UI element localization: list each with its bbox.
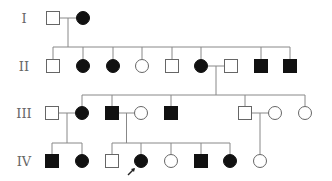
unaffected-female-ii-4 [136, 60, 149, 73]
unaffected-female-iii-7 [269, 107, 282, 120]
affected-female-iv-4 [135, 155, 148, 168]
generation-label: IV [17, 154, 32, 169]
unaffected-male-ii-1 [47, 60, 60, 73]
unaffected-male-ii-5 [166, 60, 179, 73]
generation-label: II [19, 59, 29, 74]
unaffected-female-iv-8 [254, 155, 267, 168]
unaffected-female-iv-5 [165, 155, 178, 168]
unaffected-male-i-1 [47, 12, 60, 25]
affected-female-ii-3 [107, 60, 120, 73]
affected-male-iv-6 [195, 155, 208, 168]
affected-female-ii-2 [77, 60, 90, 73]
generation-label: III [16, 106, 31, 121]
affected-male-ii-8 [255, 60, 268, 73]
affected-male-iv-1 [46, 155, 59, 168]
affected-female-iv-7 [224, 155, 237, 168]
unaffected-female-iii-4 [135, 107, 148, 120]
unaffected-male-ii-7 [225, 60, 238, 73]
affected-male-ii-9 [284, 60, 297, 73]
pedigree-diagram: IIIIIIIV [0, 0, 332, 181]
affected-female-i-2 [77, 12, 90, 25]
generation-label: I [21, 11, 26, 26]
affected-female-iii-2 [76, 107, 89, 120]
unaffected-female-iii-8 [299, 107, 312, 120]
affected-male-iii-3 [106, 107, 119, 120]
affected-male-iii-5 [165, 107, 178, 120]
affected-female-ii-6 [195, 60, 208, 73]
unaffected-male-iii-6 [239, 107, 252, 120]
unaffected-male-iv-3 [106, 155, 119, 168]
unaffected-male-iii-1 [46, 107, 59, 120]
affected-female-iv-2 [76, 155, 89, 168]
